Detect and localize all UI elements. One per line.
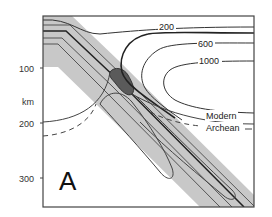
panel-label: A xyxy=(59,166,77,196)
isotherm-label-1000: 1000 xyxy=(199,56,219,66)
isotherm-label-200: 200 xyxy=(159,22,174,32)
subduction-diagram: 200 600 1000 Modern Archean 100 200 300 … xyxy=(0,0,272,217)
y-tick-300: 300 xyxy=(19,174,34,184)
y-axis-unit: km xyxy=(22,97,34,107)
modern-label: Modern xyxy=(206,111,237,121)
y-tick-200: 200 xyxy=(19,119,34,129)
y-tick-100: 100 xyxy=(19,64,34,74)
isotherm-label-600: 600 xyxy=(198,39,213,49)
archean-label: Archean xyxy=(206,123,240,133)
isotherm-1000 xyxy=(164,61,254,113)
